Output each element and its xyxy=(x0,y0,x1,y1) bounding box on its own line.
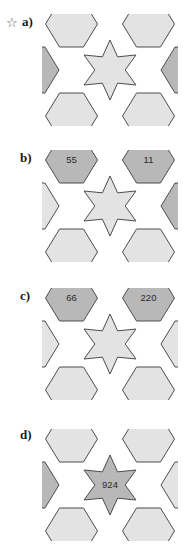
hex-cell-b-bottom-right[interactable] xyxy=(123,229,175,262)
hex-cell-d-top-right[interactable] xyxy=(123,429,175,462)
problem-label-a: a) xyxy=(22,14,33,30)
hex-cell-b-right[interactable] xyxy=(161,183,178,229)
hex-cell-b-left[interactable] xyxy=(42,183,59,229)
problem-a: ☆a)128 xyxy=(0,0,196,140)
hex-value-c-top-right: 220 xyxy=(141,292,157,303)
hex-center-star-a[interactable] xyxy=(84,40,136,100)
problem-b: b)551112 xyxy=(0,140,196,280)
hex-cell-c-left[interactable] xyxy=(42,321,59,367)
problem-label-c: c) xyxy=(20,288,30,304)
hex-cell-c-bottom-left[interactable] xyxy=(46,367,98,400)
hex-cell-a-left[interactable] xyxy=(42,47,59,93)
problem-label-b: b) xyxy=(20,150,32,166)
problem-d: d)792924 xyxy=(0,417,196,557)
problem-c: c)66220 xyxy=(0,278,196,418)
problem-label-d: d) xyxy=(20,427,32,443)
hex-value-d-center: 924 xyxy=(102,479,118,490)
hex-cell-d-top-left[interactable] xyxy=(46,429,98,462)
hex-cluster-b: 551112 xyxy=(42,150,178,262)
hex-value-c-top-left: 66 xyxy=(66,292,77,303)
hex-cell-b-bottom-left[interactable] xyxy=(46,229,98,262)
hex-cell-d-left[interactable] xyxy=(42,462,59,508)
hex-cell-a-top-left[interactable] xyxy=(46,14,98,47)
hex-center-star-b[interactable] xyxy=(84,176,136,236)
hex-cell-a-top-right[interactable] xyxy=(123,14,175,47)
hex-cell-a-right[interactable] xyxy=(161,47,178,93)
hex-cluster-c: 66220 xyxy=(42,288,178,400)
hex-cluster-a: 128 xyxy=(42,14,178,126)
hex-center-star-c[interactable] xyxy=(84,314,136,374)
hex-cell-c-right[interactable] xyxy=(161,321,178,367)
worksheet-page: ☆a)128b)551112c)66220d)792924 xyxy=(0,0,196,559)
hex-cell-d-right[interactable] xyxy=(161,462,178,508)
hex-cell-d-bottom-right[interactable] xyxy=(123,508,175,541)
hex-cell-c-bottom-right[interactable] xyxy=(123,367,175,400)
hex-value-b-top-right: 11 xyxy=(144,154,154,165)
hex-value-b-top-left: 55 xyxy=(66,154,77,165)
hex-cell-a-bottom-right[interactable] xyxy=(123,93,175,126)
star-icon: ☆ xyxy=(6,16,18,29)
hex-cell-a-bottom-left[interactable] xyxy=(46,93,98,126)
hex-cluster-d: 792924 xyxy=(42,429,178,541)
hex-cell-d-bottom-left[interactable] xyxy=(46,508,98,541)
